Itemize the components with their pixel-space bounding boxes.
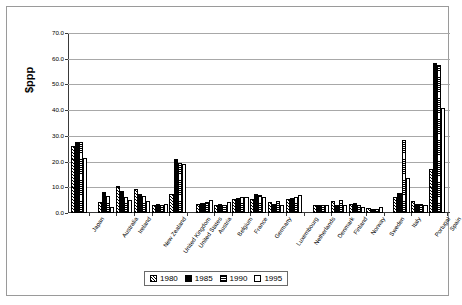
bar-group [232,33,250,213]
x-axis-tick-mark [116,213,117,216]
x-axis-tick-mark [268,213,269,216]
bar-1995 [423,205,427,213]
x-axis-tick-label: Australia [121,216,139,239]
y-axis-tick-label: 10.0 [34,184,64,190]
x-axis-tick-label: Norway [370,216,387,236]
bar-1995 [406,178,410,213]
y-axis-tick-mark [65,84,68,85]
y-axis-tick-label: 30.0 [34,133,64,139]
x-axis-tick-label: France [253,216,269,235]
x-axis-tick-mark [232,213,233,216]
bar-1995 [83,158,87,213]
bar-1995 [227,202,231,213]
bar-group [411,33,429,213]
bar-group [286,33,304,213]
x-axis-tick-label: Denmark [336,216,355,239]
bar-1995 [325,205,329,213]
y-axis-tick-label: 70.0 [34,30,64,36]
legend-label: 1985 [195,274,213,283]
bar-1995 [262,197,266,213]
legend-swatch-1985 [185,275,192,282]
y-axis-tick-mark [65,33,68,34]
x-axis-tick-label: Germany [273,216,292,240]
x-axis-tick-mark [411,213,412,216]
legend-label: 1990 [230,274,248,283]
y-axis-tick-label: 0.0 [34,210,64,216]
bar-group [134,33,152,213]
y-axis-tick-label: 20.0 [34,159,64,165]
bar-group [268,33,286,213]
chart-legend: 1980198519901995 [144,271,288,286]
bar-group [393,33,411,213]
x-axis-tick-mark [89,213,90,216]
bar-group [331,33,349,213]
bar-group [214,33,232,213]
y-axis-tick-mark [65,187,68,188]
legend-label: 1995 [264,274,282,283]
legend-swatch-1990 [220,275,227,282]
x-axis-tick-mark [447,213,448,216]
legend-item: 1985 [185,274,213,283]
bar-1995 [146,201,150,213]
bar-1995 [209,200,213,213]
bar-group [71,33,89,213]
x-axis-tick-label: Italy [411,216,422,228]
x-axis-tick-mark [250,213,251,216]
y-axis-tick-mark [65,59,68,60]
legend-label: 1980 [160,274,178,283]
legend-swatch-1980 [150,275,157,282]
x-axis-tick-mark [366,213,367,216]
x-axis-tick-label: Sweden [389,216,406,237]
bar-1995 [128,200,132,213]
y-axis-tick-label: 60.0 [34,56,64,62]
x-axis-tick-mark [187,213,188,216]
x-axis-tick-mark [152,213,153,216]
bar-group [429,33,447,213]
legend-item: 1980 [150,274,178,283]
bar-1995 [298,195,302,214]
bar-group [116,33,134,213]
x-axis-tick-label: Belgium [236,216,253,237]
bar-1995 [343,205,347,213]
y-axis-label: $ppp [23,67,35,93]
y-axis-tick-label: 50.0 [34,81,64,87]
plot-area: 0.010.020.030.040.050.060.070.0 [68,33,450,213]
x-axis-tick-mark [169,213,170,216]
x-axis-tick-label: Japan [91,216,105,233]
bar-group [98,33,116,213]
bar-1995 [441,108,445,213]
y-axis-tick-mark [65,162,68,163]
x-axis-tick-mark [429,213,430,216]
bar-group [250,33,268,213]
chart-frame: $ppp 0.010.020.030.040.050.060.070.0 Jap… [6,6,449,296]
legend-swatch-1995 [254,275,261,282]
bar-group [152,33,170,213]
x-axis-tick-label: New Zealand [162,216,187,248]
bar-group [169,33,187,213]
legend-item: 1995 [254,274,282,283]
bar-group [366,33,384,213]
bar-group [313,33,331,213]
y-axis-tick-mark [65,213,68,214]
bar-group [196,33,214,213]
legend-item: 1990 [220,274,248,283]
y-axis-tick-mark [65,136,68,137]
bar-1995 [280,205,284,213]
y-axis-tick-label: 40.0 [34,107,64,113]
bar-1995 [379,207,383,213]
bar-1995 [244,197,248,213]
bar-group [349,33,367,213]
x-axis-tick-mark [384,213,385,216]
x-axis-tick-mark [304,213,305,216]
bar-1995 [110,207,114,213]
bar-1995 [164,204,168,213]
bar-1995 [182,164,186,213]
x-axis-tick-mark [214,213,215,216]
bar-1995 [361,207,365,213]
y-axis-tick-mark [65,110,68,111]
